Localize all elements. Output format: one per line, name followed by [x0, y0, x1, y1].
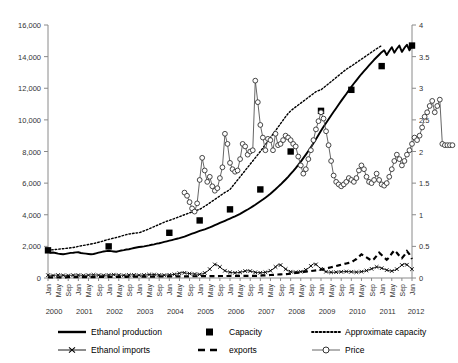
x-axis-month-label: Sep [156, 284, 164, 297]
price-point-marker [197, 178, 202, 183]
series-approximate-capacity [48, 46, 382, 251]
price-point-marker [250, 148, 255, 153]
price-point-marker [354, 176, 359, 181]
legend-item[interactable]: Ethanol production [58, 327, 162, 337]
x-axis-month-label: Sep [217, 284, 225, 297]
y-axis-right-tick-label: 4 [419, 21, 423, 30]
price-point-marker [402, 159, 407, 164]
price-point-marker [263, 148, 268, 153]
capacity-marker [45, 247, 51, 253]
price-point-marker [273, 131, 278, 136]
legend-item-label: Approximate capacity [345, 327, 427, 337]
price-point-marker [405, 152, 410, 157]
price-point-marker [260, 135, 265, 140]
x-axis-month-label: Jan [318, 284, 325, 295]
x-axis-year-label: 2007 [258, 307, 275, 316]
price-point-marker [417, 133, 422, 138]
price-point-marker [422, 114, 427, 119]
legend-item-label: Capacity [229, 327, 263, 337]
price-point-marker [207, 174, 212, 179]
x-axis-month-label: Jan [257, 284, 264, 295]
legend-item[interactable]: Approximate capacity [312, 327, 427, 337]
y-axis-left-tick-label: 10,000 [18, 116, 41, 125]
price-point-marker [228, 160, 233, 165]
price-point-marker [415, 138, 420, 143]
x-axis-month-label: Jan [106, 284, 113, 295]
x-axis-month-label: May [146, 284, 154, 298]
y-axis-right-tick-label: 0 [419, 274, 423, 283]
price-point-marker [200, 155, 205, 160]
price-point-marker [324, 129, 329, 134]
legend-item-label: Ethanol production [91, 327, 162, 337]
legend-open-circle-icon [323, 347, 329, 353]
x-axis-month-label: Sep [96, 284, 104, 297]
y-axis-right-tick-label: 0.5 [419, 242, 429, 251]
y-axis-right-tick-label: 1 [419, 211, 423, 220]
price-point-marker [407, 148, 412, 153]
price-point-marker [255, 100, 260, 105]
price-point-marker [384, 181, 389, 186]
price-point-marker [387, 174, 392, 179]
price-point-marker [258, 123, 263, 128]
y-axis-left-tick-label: 14,000 [18, 53, 41, 62]
x-axis-month-label: Jan [45, 284, 52, 295]
price-point-marker [364, 174, 369, 179]
price-point-marker [399, 163, 404, 168]
y-axis-left-tick-label: 16,000 [18, 21, 41, 30]
price-point-marker [202, 168, 207, 173]
imports-x-marker [309, 264, 313, 268]
x-axis-year-label: 2010 [349, 307, 366, 316]
x-axis-month-label: Jan [75, 284, 82, 295]
x-axis-month-label: Sep [338, 284, 346, 297]
price-point-marker [410, 142, 415, 147]
x-axis-month-label: Sep [187, 284, 195, 297]
price-point-marker [372, 178, 377, 183]
x-axis-month-label: Jan [288, 284, 295, 295]
price-point-marker [205, 179, 210, 184]
price-point-marker [303, 167, 308, 172]
price-point-marker [425, 110, 430, 115]
x-axis-month-label: Sep [278, 284, 286, 297]
price-point-marker [420, 125, 425, 130]
price-point-marker [223, 131, 228, 136]
imports-x-marker [400, 263, 404, 267]
x-axis-month-label: Jan [379, 284, 386, 295]
y-axis-left-tick-label: 0 [37, 274, 41, 283]
price-point-marker [311, 138, 316, 143]
legend-item[interactable]: exports [198, 345, 257, 355]
x-axis-month-label: May [328, 284, 336, 298]
y-axis-left-tick-label: 8,000 [22, 148, 41, 157]
price-point-marker [220, 165, 225, 170]
x-axis-month-label: Jan [197, 284, 204, 295]
price-point-marker [296, 154, 301, 159]
legend-item[interactable]: Ethanol imports [58, 345, 150, 355]
x-axis-month-label: Sep [308, 284, 316, 297]
imports-x-marker [274, 265, 278, 269]
imports-x-marker [208, 267, 212, 271]
price-point-marker [253, 78, 258, 83]
legend-filled-square-icon [206, 329, 213, 336]
y-axis-left-tick-label: 6,000 [22, 179, 41, 188]
x-axis-year-label: 2003 [137, 307, 154, 316]
x-axis-month-label: May [176, 284, 184, 298]
price-point-marker [217, 176, 222, 181]
price-point-marker [319, 110, 324, 115]
price-point-marker [281, 138, 286, 143]
imports-x-marker [284, 267, 288, 271]
price-point-marker [271, 148, 276, 153]
capacity-marker [227, 206, 233, 212]
legend-item[interactable]: Capacity [206, 327, 263, 337]
legend-item-label: Price [345, 345, 365, 355]
ethanol-production-chart: 02,0004,0006,0008,00010,00012,00014,0001… [0, 0, 458, 363]
price-point-marker [268, 138, 273, 143]
x-axis-month-label: Sep [247, 284, 255, 297]
x-axis-year-label: 2005 [197, 307, 214, 316]
legend-item[interactable]: Price [312, 345, 365, 355]
price-point-marker [357, 168, 362, 173]
x-axis-month-label: May [116, 284, 124, 298]
legend-item-label: Ethanol imports [91, 345, 150, 355]
price-point-marker [450, 143, 455, 148]
price-point-marker [306, 157, 311, 162]
price-point-marker [187, 200, 192, 205]
x-axis-year-label: 2004 [167, 307, 184, 316]
